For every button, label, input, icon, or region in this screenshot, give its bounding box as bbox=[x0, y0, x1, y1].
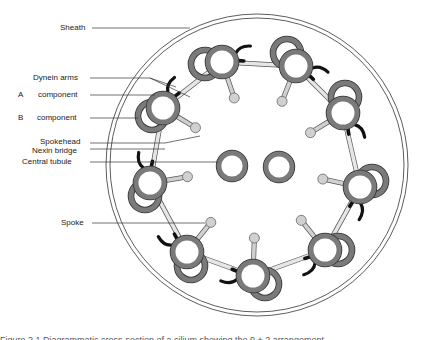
spokehead bbox=[206, 217, 216, 227]
spokehead bbox=[296, 215, 306, 225]
label-sheath: Sheath bbox=[60, 23, 85, 32]
a-tubule bbox=[282, 52, 310, 80]
a-tubule bbox=[149, 94, 177, 122]
spokehead bbox=[305, 128, 315, 138]
spokehead bbox=[182, 172, 192, 182]
dynein-arm-outer bbox=[221, 279, 237, 282]
spokehead bbox=[277, 96, 287, 106]
label-a-letter: A bbox=[18, 90, 23, 99]
label-spokehead: Spokehead bbox=[40, 137, 80, 146]
central-tubule bbox=[219, 153, 245, 179]
dynein-arm-outer bbox=[236, 46, 251, 53]
spokehead bbox=[318, 174, 328, 184]
spokehead bbox=[229, 93, 239, 103]
spokehead bbox=[249, 233, 259, 243]
dynein-arm-outer bbox=[304, 263, 315, 275]
label-b-component: component bbox=[37, 113, 77, 122]
dynein-arm-outer bbox=[138, 152, 143, 167]
label-central-tubule: Central tubule bbox=[22, 157, 72, 166]
label-dynein-arms: Dynein arms bbox=[33, 73, 78, 82]
dynein-arm-outer bbox=[167, 78, 174, 93]
central-tubule bbox=[266, 154, 292, 180]
label-a-component: component bbox=[38, 90, 78, 99]
a-tubule bbox=[329, 99, 357, 127]
outer-doublets bbox=[131, 39, 386, 298]
label-spoke: Spoke bbox=[61, 218, 84, 227]
label-nexin-bridge: Nexin bridge bbox=[32, 146, 77, 155]
a-tubule bbox=[173, 238, 201, 266]
spokehead bbox=[190, 123, 200, 133]
a-tubule bbox=[208, 48, 236, 76]
label-b-letter: B bbox=[18, 113, 23, 122]
dynein-arm-outer bbox=[359, 203, 362, 219]
a-tubule bbox=[311, 236, 339, 264]
central-pair bbox=[219, 153, 292, 180]
dynein-arm-outer bbox=[355, 125, 365, 138]
a-tubule bbox=[346, 173, 374, 201]
figure-caption: Figure 2.1 Diagrammatic cross-section of… bbox=[0, 334, 422, 340]
a-tubule bbox=[136, 169, 164, 197]
dynein-arm-outer bbox=[158, 237, 172, 246]
a-tubule bbox=[239, 262, 267, 290]
dynein-arm-outer bbox=[312, 67, 328, 72]
